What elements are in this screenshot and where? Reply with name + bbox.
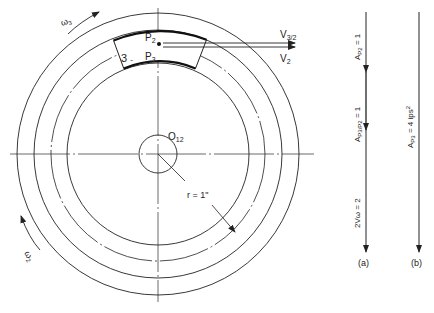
omega2-label: ω2 xyxy=(21,249,36,264)
omega3-label: ω3 xyxy=(59,15,73,29)
v32-label: V3/2 xyxy=(280,29,297,41)
caption-b: (b) xyxy=(411,258,422,268)
radius-leader xyxy=(158,154,185,181)
a-p3-label: AP3 = 4 ips2 xyxy=(405,105,416,148)
a-p3p2-label: AP3/P2 = 1 xyxy=(353,106,363,142)
radius-label: r = 1" xyxy=(187,190,208,200)
coriolis-label: 2Vω = 2 xyxy=(353,198,362,228)
point-p2-p3 xyxy=(157,42,161,46)
center-label: O12 xyxy=(168,131,184,143)
a-p2-label: AP2 = 1 xyxy=(353,33,363,60)
omega2-arrow xyxy=(21,216,40,250)
kinematics-diagram: O12 3- P2 P3 ω3 ω2 r = 1" V3/2 V2 AP2 = … xyxy=(0,0,434,313)
omega3-arrow xyxy=(68,12,99,34)
caption-a: (a) xyxy=(358,258,369,268)
v2-label: V2 xyxy=(280,53,291,65)
radius-arrow xyxy=(212,205,235,232)
